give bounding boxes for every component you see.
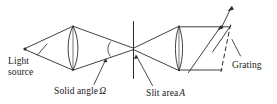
label-grating: Grating bbox=[232, 60, 262, 71]
ray-lens1-top-to-slit bbox=[73, 26, 134, 48]
label-solid-angle-symbol: Ω bbox=[98, 86, 106, 96]
diffracted-beam-lower bbox=[189, 26, 222, 73]
label-light-source-line2: source bbox=[8, 67, 33, 78]
grating-surface bbox=[221, 25, 231, 72]
label-solid-angle-text: Solid angle bbox=[54, 86, 98, 96]
diffracted-beam-upper-stub bbox=[213, 26, 231, 53]
leader-slit-area bbox=[137, 56, 153, 86]
focusing-lens-left-face bbox=[175, 26, 179, 70]
arrowhead-upper-beam bbox=[228, 6, 234, 11]
diagram-canvas bbox=[0, 0, 277, 104]
ray-slit-to-lens2-bottom bbox=[134, 50, 180, 71]
label-slit-area-text: Slit area bbox=[146, 88, 178, 98]
ray-source-to-lens1-top bbox=[26, 26, 74, 48]
label-solid-angle: Solid angleΩ bbox=[54, 86, 106, 97]
focusing-lens-right-face bbox=[179, 26, 183, 70]
ray-slit-to-lens2-top bbox=[134, 26, 180, 48]
leader-solid-angle bbox=[94, 60, 106, 85]
label-light-source-line1: Light bbox=[8, 56, 33, 67]
arrowhead-slit-leader bbox=[134, 54, 138, 59]
collimating-lens-left-face bbox=[68, 26, 73, 70]
label-light-source: Light source bbox=[8, 56, 33, 77]
label-slit-area: Slit areaA bbox=[146, 88, 185, 99]
label-slit-area-symbol: A bbox=[178, 88, 185, 98]
collimating-lens-right-face bbox=[73, 26, 78, 70]
leader-light-source bbox=[38, 44, 48, 55]
leader-grating bbox=[232, 40, 241, 57]
ray-lens1-bottom-to-slit bbox=[73, 50, 134, 71]
optical-diagram-figure: Light source Solid angleΩ Slit areaA Gra… bbox=[0, 0, 277, 104]
solid-angle-arc bbox=[108, 42, 111, 56]
